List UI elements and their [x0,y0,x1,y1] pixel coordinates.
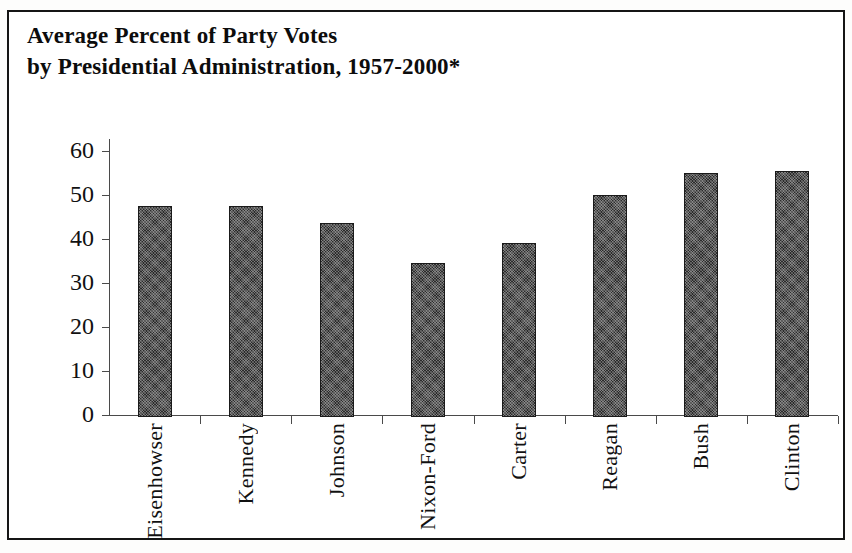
bar [684,173,718,417]
x-label-slot: Eisenhowser [109,423,200,539]
y-tick-30: 30 [102,283,109,284]
bar [775,171,809,417]
y-tick-label-60: 60 [70,138,94,162]
y-tick-50: 50 [102,195,109,196]
x-label-slot: Clinton [747,423,838,491]
y-tick-label-30: 30 [70,270,94,294]
y-tick-label-10: 10 [70,358,94,382]
x-axis-label-clinton: Clinton [781,423,803,491]
bar-slot [291,129,382,417]
x-axis-label-nixon-ford: Nixon-Ford [417,423,439,530]
y-tick-60: 60 [102,151,109,152]
bar-slot [565,129,656,417]
y-tick-label-0: 0 [82,402,94,426]
y-tick-label-40: 40 [70,226,94,250]
y-tick-0: 0 [102,415,109,416]
x-label-slot: Kennedy [200,423,291,505]
bar [411,263,445,417]
chart-title-line-2: by Presidential Administration, 1957-200… [27,51,767,82]
bar-slot [200,129,291,417]
y-tick-label-50: 50 [70,182,94,206]
x-label-slot: Carter [474,423,565,480]
x-label-slot: Bush [656,423,747,469]
bar [502,243,536,417]
bar [593,195,627,417]
y-tick-40: 40 [102,239,109,240]
x-axis-label-johnson: Johnson [326,423,348,497]
bar [138,206,172,417]
x-axis-label-reagan: Reagan [599,423,621,491]
bar [229,206,263,417]
y-tick-label-20: 20 [70,314,94,338]
x-axis-label-kennedy: Kennedy [235,423,257,505]
x-label-slot: Johnson [291,423,382,497]
x-axis-label-eisenhowser: Eisenhowser [144,423,166,539]
bar-slot [747,129,838,417]
x-label-slot: Reagan [565,423,656,491]
x-tick [838,416,839,424]
plot-area: 0102030405060 EisenhowserKennedyJohnsonN… [109,127,840,417]
y-tick-20: 20 [102,327,109,328]
bar [320,223,354,417]
x-axis-label-bush: Bush [690,423,712,469]
y-tick-10: 10 [102,371,109,372]
chart-title: Average Percent of Party Votes by Presid… [27,20,767,82]
bar-slot [474,129,565,417]
scanned-page: Average Percent of Party Votes by Presid… [0,0,852,553]
figure-frame: Average Percent of Party Votes by Presid… [7,10,845,540]
x-label-slot: Nixon-Ford [382,423,473,530]
bar-slot [656,129,747,417]
bar-slot [382,129,473,417]
x-axis-label-carter: Carter [508,423,530,480]
bar-slot [109,129,200,417]
chart-title-line-1: Average Percent of Party Votes [27,20,767,51]
